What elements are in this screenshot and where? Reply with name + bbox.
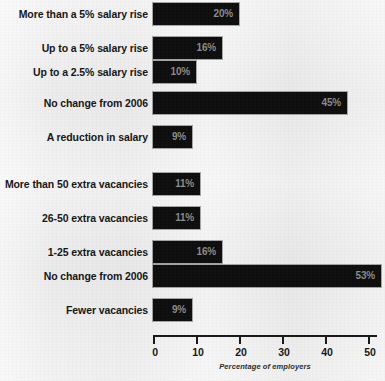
bar-row: More than 50 extra vacancies11%	[0, 173, 385, 195]
axis-tick-mark	[196, 335, 198, 344]
bar: 20%	[153, 3, 239, 25]
axis-tick-label: 50	[355, 346, 385, 358]
axis-tick-label: 10	[183, 346, 213, 358]
bar-row: 1-25 extra vacancies16%	[0, 241, 385, 263]
bar-category-label: A reduction in salary	[0, 126, 148, 148]
bar-value-label: 45%	[322, 92, 341, 114]
axis-tick-mark	[282, 335, 284, 344]
bar: 53%	[153, 265, 381, 287]
bar: 45%	[153, 92, 347, 114]
bar: 10%	[153, 61, 196, 83]
bar: 16%	[153, 37, 222, 59]
bar-row: A reduction in salary9%	[0, 126, 385, 148]
bars-layer: More than a 5% salary rise20%Up to a 5% …	[0, 0, 385, 330]
bar-category-label: More than a 5% salary rise	[0, 3, 148, 25]
axis-tick-label: 20	[226, 346, 256, 358]
bar: 11%	[153, 207, 200, 229]
bar-row: More than a 5% salary rise20%	[0, 3, 385, 25]
axis-tick-label: 40	[312, 346, 342, 358]
bar: 11%	[153, 173, 200, 195]
bar-category-label: More than 50 extra vacancies	[0, 173, 148, 195]
axis-caption-label: Percentage of employers	[153, 362, 377, 371]
bar-row: Up to a 2.5% salary rise10%	[0, 61, 385, 83]
bar-row: Fewer vacancies9%	[0, 299, 385, 321]
bar-value-label: 11%	[175, 207, 194, 229]
bar-value-label: 16%	[197, 37, 216, 59]
bar-row: 26-50 extra vacancies11%	[0, 207, 385, 229]
bar-category-label: No change from 2006	[0, 265, 148, 287]
bar-value-label: 9%	[172, 126, 186, 148]
bar: 16%	[153, 241, 222, 263]
axis-tick-mark	[153, 335, 155, 344]
bar-row: No change from 200645%	[0, 92, 385, 114]
bar: 9%	[153, 299, 192, 321]
bar-value-label: 10%	[171, 61, 190, 83]
bar-value-label: 53%	[356, 265, 375, 287]
bar-category-label: Fewer vacancies	[0, 299, 148, 321]
bar-value-label: 16%	[197, 241, 216, 263]
bar-row: No change from 200653%	[0, 265, 385, 287]
bar-chart: More than a 5% salary rise20%Up to a 5% …	[0, 0, 385, 381]
bar-category-label: Up to a 5% salary rise	[0, 37, 148, 59]
bar-value-label: 20%	[214, 3, 233, 25]
bar-value-label: 9%	[172, 299, 186, 321]
axis-tick-mark	[325, 335, 327, 344]
axis-tick-mark	[368, 335, 370, 344]
axis-tick-label: 0	[140, 346, 170, 358]
bar-category-label: 26-50 extra vacancies	[0, 207, 148, 229]
bar-category-label: Up to a 2.5% salary rise	[0, 61, 148, 83]
bar-category-label: 1-25 extra vacancies	[0, 241, 148, 263]
axis-tick-label: 30	[269, 346, 299, 358]
bar: 9%	[153, 126, 192, 148]
bar-category-label: No change from 2006	[0, 92, 148, 114]
axis-line	[153, 335, 377, 337]
axis-tick-mark	[239, 335, 241, 344]
bar-row: Up to a 5% salary rise16%	[0, 37, 385, 59]
bar-value-label: 11%	[175, 173, 194, 195]
